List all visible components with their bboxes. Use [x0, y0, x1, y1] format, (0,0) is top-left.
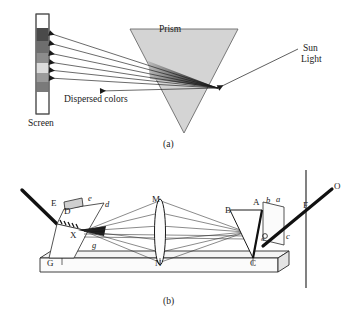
- point-label-E: E: [51, 199, 57, 208]
- point-label-O: O: [334, 182, 341, 191]
- band-green: [37, 53, 49, 63]
- panel-b-caption: (b): [163, 297, 174, 307]
- italic-label-d: d: [105, 200, 109, 209]
- point-label-G: G: [47, 259, 54, 268]
- point-label-M: M: [152, 195, 160, 204]
- point-label-D: D: [64, 207, 71, 216]
- point-label-A: A: [253, 198, 260, 207]
- screen-group: [36, 14, 49, 114]
- band-red: [37, 82, 49, 92]
- italic-label-c: c: [286, 232, 290, 241]
- band-violet: [37, 28, 49, 41]
- optics-figure: Prism Sun Light Dispersed colors Screen …: [0, 0, 351, 318]
- italic-label-b: b: [266, 196, 270, 205]
- band-blue: [37, 41, 49, 53]
- lens-MN: [155, 199, 166, 265]
- point-label-N: N: [155, 259, 162, 268]
- band-orange: [37, 73, 49, 82]
- sun-light-label-line2: Light: [301, 55, 322, 65]
- band-yellow: [37, 63, 49, 73]
- dispersed-colors-label: Dispersed colors: [64, 95, 128, 105]
- sun-light-label-line1: Sun: [303, 44, 318, 54]
- point-label-F: F: [303, 201, 308, 210]
- screen-label: Screen: [28, 119, 54, 129]
- italic-label-a: a: [276, 195, 280, 204]
- italic-label-g: g: [92, 241, 96, 250]
- point-label-B: B: [225, 206, 231, 215]
- point-label-C: C: [250, 259, 256, 268]
- panel-a-caption: (a): [163, 140, 174, 150]
- point-label-X: X: [70, 231, 77, 240]
- prism-label: Prism: [159, 25, 181, 35]
- italic-label-o: o: [261, 236, 264, 243]
- incident-ray: [218, 49, 298, 88]
- panel-b-group: [22, 170, 332, 288]
- italic-label-e: e: [88, 194, 92, 203]
- figure-canvas: [0, 0, 351, 318]
